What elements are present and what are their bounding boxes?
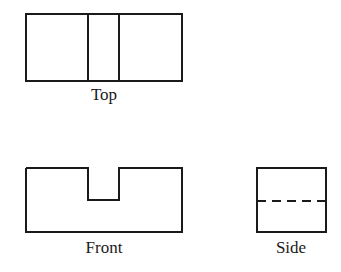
side-view <box>257 168 326 232</box>
front-view-outline <box>26 168 182 232</box>
projection-drawing <box>0 0 341 272</box>
top-view <box>26 14 182 81</box>
top-view-outline <box>26 14 182 81</box>
top-view-label: Top <box>54 85 154 105</box>
front-view-label: Front <box>54 238 154 258</box>
front-view <box>26 168 182 232</box>
side-view-label: Side <box>241 238 341 258</box>
